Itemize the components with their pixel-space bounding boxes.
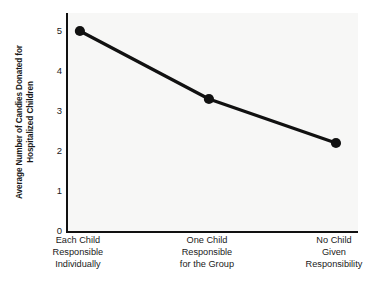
y-tick-label: 4 bbox=[44, 66, 62, 76]
x-category-label-line: Responsibility bbox=[279, 258, 376, 270]
x-category-label-line: No Child bbox=[279, 234, 376, 246]
chart-figure: Average Number of Candies Donated for Ho… bbox=[0, 0, 376, 289]
y-axis-title-line-2: Hospitalized Children bbox=[25, 45, 36, 199]
y-axis-title: Average Number of Candies Donated for Ho… bbox=[8, 13, 42, 231]
data-point-marker bbox=[75, 26, 85, 36]
x-category-label-line: for the Group bbox=[152, 258, 262, 270]
data-point-marker bbox=[331, 138, 341, 148]
x-category-label-line: Individually bbox=[23, 258, 133, 270]
x-category-label: One ChildResponsiblefor the Group bbox=[152, 234, 262, 271]
x-category-label-line: Responsible bbox=[152, 246, 262, 258]
y-axis-title-line-1: Average Number of Candies Donated for bbox=[14, 45, 25, 199]
x-category-label-line: One Child bbox=[152, 234, 262, 246]
x-category-label-line: Each Child bbox=[23, 234, 133, 246]
x-axis-category-labels: Each ChildResponsibleIndividuallyOne Chi… bbox=[66, 234, 358, 284]
x-category-label-line: Responsible bbox=[23, 246, 133, 258]
data-series-svg bbox=[68, 13, 358, 231]
y-axis-title-text: Average Number of Candies Donated for Ho… bbox=[14, 45, 36, 199]
x-category-label-line: Given bbox=[279, 246, 376, 258]
y-tick-label: 1 bbox=[44, 186, 62, 196]
plot-area bbox=[66, 13, 358, 233]
y-tick-label: 5 bbox=[44, 26, 62, 36]
data-point-marker bbox=[204, 94, 214, 104]
x-category-label: No ChildGivenResponsibility bbox=[279, 234, 376, 271]
y-tick-label: 2 bbox=[44, 146, 62, 156]
x-category-label: Each ChildResponsibleIndividually bbox=[23, 234, 133, 271]
line-series-path bbox=[80, 31, 336, 143]
y-tick-label: 3 bbox=[44, 106, 62, 116]
